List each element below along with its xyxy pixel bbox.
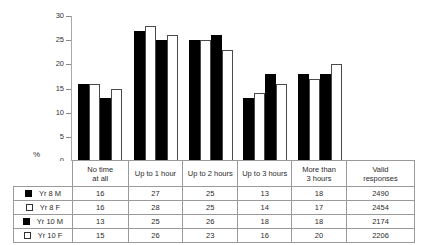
table-cell: 28 <box>128 201 183 215</box>
y-axis-tick-label: 30 <box>42 12 64 20</box>
bar <box>309 79 320 161</box>
bar <box>265 74 276 161</box>
bar <box>156 40 167 161</box>
table-header-row: No timeat allUp to 1 hourUp to 2 hoursUp… <box>14 161 415 187</box>
table-body: Yr 8 M16272513182490Yr 8 F16282514172454… <box>14 187 415 243</box>
table-column-header: Up to 2 hours <box>183 161 238 187</box>
table-column-header: More than3 hours <box>292 161 347 187</box>
table-cell: 16 <box>72 187 128 201</box>
y-axis-tick-label: 25 <box>42 36 64 44</box>
bar <box>331 64 342 161</box>
header-line-1: No time <box>87 165 113 174</box>
header-line-1: Valid <box>372 165 388 174</box>
table-cell: 17 <box>292 201 347 215</box>
table-cell: 14 <box>238 201 292 215</box>
y-axis-tick-labels: 051015202530 <box>40 0 64 163</box>
table-row: Yr 8 F16282514172454 <box>14 201 415 215</box>
legend-open-square-icon <box>24 232 31 239</box>
table-cell: 18 <box>292 187 347 201</box>
bar <box>211 35 222 161</box>
header-line-2: at all <box>73 174 128 183</box>
table-cell: 25 <box>183 187 238 201</box>
bar <box>222 50 233 161</box>
table-column-header: Validresponses <box>346 161 414 187</box>
series-name: Yr 10 F <box>38 231 63 240</box>
y-axis-unit-label: % <box>33 151 40 159</box>
bar <box>89 84 100 161</box>
table-cell: 13 <box>72 215 128 229</box>
table-cell: 18 <box>238 215 292 229</box>
table-cell: 15 <box>72 229 128 243</box>
table-cell: 16 <box>72 201 128 215</box>
table-cell: 26 <box>183 215 238 229</box>
series-name: Yr 10 M <box>37 217 63 226</box>
table-cell: 2174 <box>346 215 414 229</box>
header-line-1: Up to 3 hours <box>242 169 287 178</box>
bar <box>254 93 265 161</box>
table-column-header: No timeat all <box>72 161 128 187</box>
y-axis-tick-label: 15 <box>42 85 64 93</box>
table-corner-cell <box>14 161 73 187</box>
table-row: Yr 10 M13252618182174 <box>14 215 415 229</box>
table-cell: 26 <box>128 229 183 243</box>
header-line-2: 3 hours <box>292 174 346 183</box>
y-axis-tick-label: 5 <box>42 133 64 141</box>
header-line-1: Up to 1 hour <box>135 169 176 178</box>
table-row: Yr 10 F15262316202206 <box>14 229 415 243</box>
legend-row-label: Yr 8 F <box>14 201 73 215</box>
bar <box>200 40 211 161</box>
table-cell: 16 <box>238 229 292 243</box>
legend-filled-square-icon <box>23 218 30 225</box>
table-cell: 27 <box>128 187 183 201</box>
plot-area: 051015202530 % <box>0 0 426 163</box>
legend-row-label: Yr 10 F <box>14 229 73 243</box>
bar-group <box>238 16 292 161</box>
legend-open-square-icon <box>26 204 33 211</box>
y-axis-tick-mark <box>66 89 71 90</box>
table-column-header: Up to 3 hours <box>238 161 292 187</box>
table-cell: 25 <box>128 215 183 229</box>
y-axis-tick-mark <box>66 64 71 65</box>
series-name: Yr 8 F <box>40 203 60 212</box>
table-cell: 20 <box>292 229 347 243</box>
table-cell: 18 <box>292 215 347 229</box>
y-axis-tick-mark <box>66 16 71 17</box>
bar-group <box>183 16 238 161</box>
bar <box>145 26 156 161</box>
y-axis-tick-mark <box>66 40 71 41</box>
bar <box>111 89 122 162</box>
legend-filled-square-icon <box>25 190 32 197</box>
y-axis-tick-mark <box>66 137 71 138</box>
y-axis-tick-label: 20 <box>42 60 64 68</box>
legend-row-label: Yr 8 M <box>14 187 73 201</box>
bar <box>298 74 309 161</box>
table-cell: 13 <box>238 187 292 201</box>
bar <box>320 74 331 161</box>
table-cell: 2454 <box>346 201 414 215</box>
table-cell: 25 <box>183 201 238 215</box>
chart-figure: 051015202530 % No timeat allUp to 1 hour… <box>0 0 426 245</box>
legend-row-label: Yr 10 M <box>14 215 73 229</box>
bar-group <box>72 16 128 161</box>
table-row: Yr 8 M16272513182490 <box>14 187 415 201</box>
bar <box>78 84 89 161</box>
y-axis-tick-mark <box>66 113 71 114</box>
header-line-1: Up to 2 hours <box>188 169 233 178</box>
bar <box>100 98 111 161</box>
header-line-1: More than <box>302 165 336 174</box>
table-cell: 23 <box>183 229 238 243</box>
bar <box>243 98 254 161</box>
data-table: No timeat allUp to 1 hourUp to 2 hoursUp… <box>13 160 415 243</box>
table-cell: 2490 <box>346 187 414 201</box>
table-column-header: Up to 1 hour <box>128 161 183 187</box>
bar <box>189 40 200 161</box>
bars-layer <box>72 16 415 161</box>
bar <box>167 35 178 161</box>
bar <box>276 84 287 161</box>
table-cell: 2206 <box>346 229 414 243</box>
y-axis-tick-label: 10 <box>42 109 64 117</box>
header-line-2: responses <box>347 174 414 183</box>
bar-group <box>128 16 183 161</box>
bar-group <box>292 16 347 161</box>
bar <box>134 31 145 162</box>
